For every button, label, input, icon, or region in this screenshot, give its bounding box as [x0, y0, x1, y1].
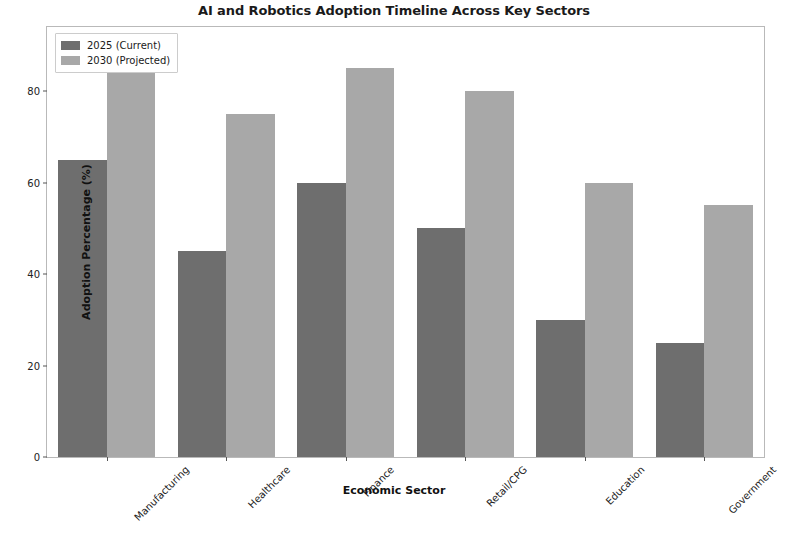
y-axis-label: Adoption Percentage (%)	[80, 164, 93, 320]
y-tick-label: 0	[34, 452, 40, 463]
legend-item[interactable]: 2030 (Projected)	[61, 53, 170, 68]
bar	[536, 320, 584, 457]
chart-figure: AI and Robotics Adoption Timeline Across…	[0, 0, 788, 540]
x-tick-mark	[226, 457, 227, 461]
bar	[465, 91, 513, 457]
x-tick-mark	[704, 457, 705, 461]
bar	[656, 343, 704, 457]
x-tick-mark	[585, 457, 586, 461]
x-tick-mark	[107, 457, 108, 461]
bar	[178, 251, 226, 457]
x-tick-mark	[346, 457, 347, 461]
legend-swatch-series-0	[61, 41, 80, 50]
legend-label-series-0: 2025 (Current)	[87, 40, 161, 51]
y-tick-label: 20	[27, 360, 40, 371]
legend-item[interactable]: 2025 (Current)	[61, 38, 170, 53]
y-tick-label: 40	[27, 269, 40, 280]
x-tick-mark	[465, 457, 466, 461]
x-axis-label: Economic Sector	[0, 484, 788, 497]
y-tick-mark	[43, 91, 47, 92]
bar	[704, 205, 752, 457]
bar	[417, 228, 465, 457]
plot-inner: 020406080ManufacturingHealthcareFinanceR…	[47, 27, 764, 457]
bar	[297, 183, 345, 457]
y-tick-label: 60	[27, 177, 40, 188]
legend-label-series-1: 2030 (Projected)	[87, 55, 170, 66]
y-tick-mark	[43, 274, 47, 275]
bar	[226, 114, 274, 457]
y-tick-mark	[43, 182, 47, 183]
bar	[107, 45, 155, 457]
y-tick-label: 80	[27, 86, 40, 97]
plot-area: 020406080ManufacturingHealthcareFinanceR…	[46, 26, 765, 458]
legend-swatch-series-1	[61, 56, 80, 65]
y-tick-mark	[43, 457, 47, 458]
y-tick-mark	[43, 365, 47, 366]
bar	[346, 68, 394, 457]
chart-title: AI and Robotics Adoption Timeline Across…	[0, 3, 788, 18]
bar	[585, 183, 633, 457]
chart-legend: 2025 (Current) 2030 (Projected)	[55, 33, 178, 73]
